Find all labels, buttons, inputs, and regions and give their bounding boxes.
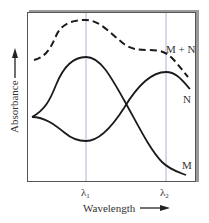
plot-frame — [28, 13, 196, 182]
frame-shadow-right — [196, 10, 199, 182]
x-tick-lambda2: λ2 — [160, 186, 169, 200]
series-label-n: N — [183, 93, 191, 105]
series-label-m: M — [182, 159, 192, 171]
x-tick-lambda1: λ1 — [81, 186, 90, 200]
x-axis-label: Wavelength — [83, 202, 136, 214]
y-axis-arrow-icon — [12, 48, 18, 58]
absorbance-chart: M + N N M λ1 λ2 Wavelength Absorbance — [0, 0, 209, 223]
x-axis-arrow-icon — [160, 205, 170, 211]
series-label-m-plus-n: M + N — [166, 43, 195, 55]
y-axis-label: Absorbance — [8, 80, 20, 133]
